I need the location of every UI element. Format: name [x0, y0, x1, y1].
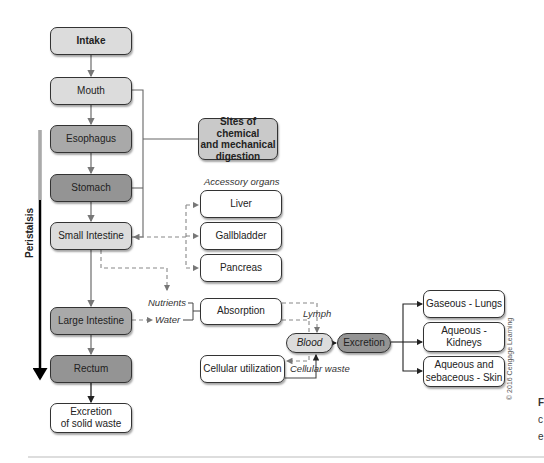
mouth-label: Mouth	[77, 85, 105, 98]
sites-line2: and mechanical	[200, 139, 275, 151]
pancreas-label: Pancreas	[220, 262, 262, 275]
lymph-label: Lymph	[303, 308, 331, 319]
large-intestine-label: Large Intestine	[58, 315, 124, 328]
copyright-text: © 2016 Cengage Learning	[506, 318, 513, 400]
large-intestine-box: Large Intestine	[50, 307, 132, 335]
intake-box: Intake	[50, 27, 132, 55]
esophagus-label: Esophagus	[66, 133, 116, 146]
small-intestine-label: Small Intestine	[58, 230, 124, 243]
stomach-box: Stomach	[50, 174, 132, 202]
sites-box: Sites of chemical and mechanical digesti…	[198, 118, 278, 160]
blood-box: Blood	[286, 333, 333, 353]
solid-waste-line1: Excretion	[70, 406, 112, 419]
rectum-label: Rectum	[74, 363, 108, 376]
peristalsis-label: Peristalsis	[24, 208, 35, 258]
cutoff-letter: e	[538, 431, 544, 442]
intake-label: Intake	[77, 35, 106, 48]
skin-line2: sebaceous - Skin	[426, 372, 503, 385]
skin-line1: Aqueous and	[435, 359, 494, 372]
lungs-box: Gaseous - Lungs	[423, 290, 505, 318]
excretion-label: Excretion	[343, 337, 385, 350]
skin-box: Aqueous and sebaceous - Skin	[423, 356, 505, 387]
cellular-utilization-box: Cellular utilization	[200, 355, 285, 383]
mouth-box: Mouth	[50, 77, 132, 105]
rectum-box: Rectum	[50, 355, 132, 383]
lungs-label: Gaseous - Lungs	[426, 298, 502, 311]
solid-waste-line2: of solid waste	[61, 418, 122, 431]
cutoff-letter: c	[538, 414, 543, 425]
absorption-label: Absorption	[217, 305, 265, 318]
water-label: Water	[155, 314, 180, 325]
absorption-box: Absorption	[200, 298, 282, 325]
kidneys-label: Aqueous - Kidneys	[424, 325, 504, 350]
liver-label: Liver	[230, 198, 252, 211]
esophagus-box: Esophagus	[50, 125, 132, 153]
pancreas-box: Pancreas	[200, 254, 282, 282]
gallbladder-label: Gallbladder	[215, 230, 266, 243]
stomach-label: Stomach	[71, 182, 110, 195]
solid-waste-box: Excretion of solid waste	[50, 403, 132, 433]
liver-box: Liver	[200, 190, 282, 218]
small-intestine-box: Small Intestine	[50, 222, 132, 250]
kidneys-box: Aqueous - Kidneys	[423, 322, 505, 352]
gallbladder-box: Gallbladder	[200, 222, 282, 250]
nutrients-label: Nutrients	[148, 297, 186, 308]
cellular-utilization-label: Cellular utilization	[203, 363, 281, 376]
cutoff-letter: F	[538, 397, 544, 408]
excretion-box: Excretion	[337, 333, 391, 353]
accessory-heading: Accessory organs	[204, 176, 280, 187]
sites-line3: digestion	[216, 151, 260, 163]
cellular-waste-label: Cellular waste	[290, 363, 350, 374]
sites-line1: Sites of chemical	[199, 116, 277, 139]
blood-label: Blood	[297, 337, 323, 350]
